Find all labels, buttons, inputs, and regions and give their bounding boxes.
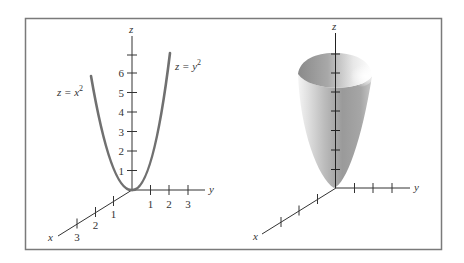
svg-text:1: 1: [148, 198, 154, 210]
curve-z-equals-y-squared: [132, 53, 170, 190]
svg-text:3: 3: [185, 198, 191, 210]
figure-canvas: z 1 2 3 4 5 6 y 1 2: [0, 0, 464, 263]
paraboloid-rim-highlight: [342, 63, 374, 87]
svg-text:3: 3: [119, 126, 125, 138]
left-y-axis-label: y: [208, 183, 214, 195]
svg-text:5: 5: [119, 87, 125, 99]
right-x-ticks: [281, 194, 318, 227]
svg-text:2: 2: [166, 198, 172, 210]
right-x-axis-label: x: [252, 230, 258, 242]
svg-text:1: 1: [111, 208, 117, 220]
svg-text:3: 3: [74, 231, 80, 243]
left-y-tick-labels: 1 2 3: [148, 198, 192, 210]
curve-z-equals-x-squared: [91, 76, 132, 190]
svg-text:2: 2: [119, 145, 125, 157]
right-z-axis-label: z: [331, 20, 337, 32]
figure-frame: [26, 19, 442, 250]
right-panel: z y x: [252, 20, 419, 242]
figure: z 1 2 3 4 5 6 y 1 2: [0, 0, 464, 263]
svg-text:1: 1: [119, 165, 125, 177]
left-z-axis-label: z: [128, 23, 134, 35]
svg-text:2: 2: [93, 219, 99, 231]
left-panel: z 1 2 3 4 5 6 y 1 2: [47, 23, 214, 243]
right-y-axis-label: y: [413, 181, 419, 193]
label-z-equals-x-squared: z = x2: [56, 84, 83, 98]
left-x-axis-label: x: [47, 231, 53, 243]
left-z-tick-labels: 1 2 3 4 5 6: [119, 67, 125, 177]
label-z-equals-y-squared: z = y2: [174, 58, 201, 72]
svg-text:6: 6: [119, 67, 125, 79]
svg-text:4: 4: [119, 106, 125, 118]
